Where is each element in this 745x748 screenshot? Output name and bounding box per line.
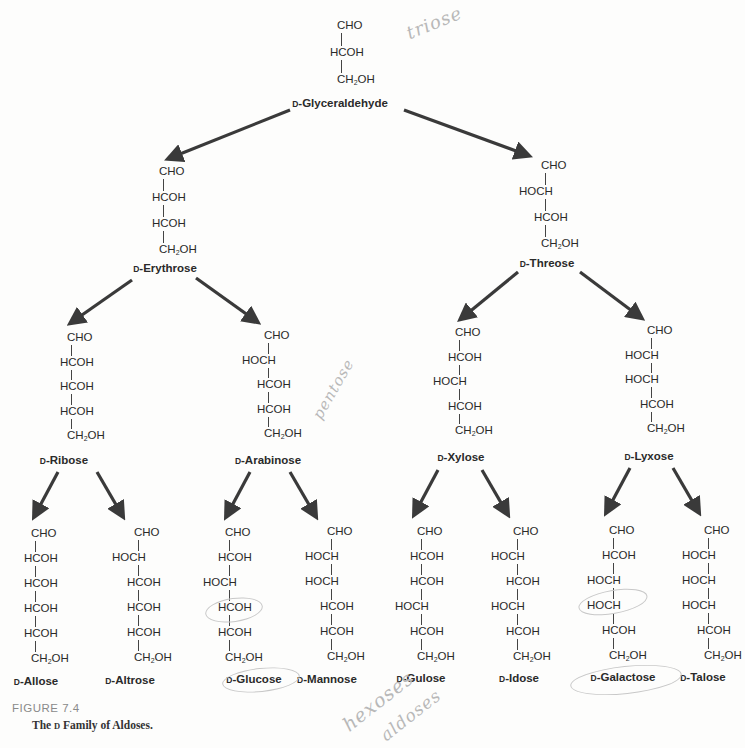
chain-group: CHO	[327, 526, 353, 538]
chain-group: HOCH	[682, 575, 716, 587]
bond-line	[71, 345, 72, 356]
bond-line	[331, 539, 332, 550]
name-text: -Erythrose	[139, 262, 197, 274]
chain-group: HCOH	[320, 601, 354, 613]
chain-group: HCOH	[60, 357, 94, 369]
name-text: -Allose	[20, 675, 58, 687]
name-text: -Altrose	[111, 674, 154, 686]
chain-group: HOCH	[112, 552, 146, 564]
bond-line	[613, 563, 614, 574]
bond-line	[651, 412, 652, 423]
chain-group: CHO	[704, 525, 730, 537]
bond-line	[163, 231, 164, 243]
molecule-name-ribose: D-Ribose	[40, 455, 88, 467]
chain-group: HOCH	[242, 355, 276, 367]
bond-line	[229, 565, 230, 576]
chain-group: CHO	[264, 330, 290, 342]
chain-group: HOCH	[305, 576, 339, 588]
bond-line	[421, 614, 422, 625]
bond-line	[163, 179, 164, 191]
chain-group: HCOH	[320, 626, 354, 638]
figure-label: FIGURE 7.4	[12, 702, 80, 714]
chain-group: HCOH	[506, 576, 540, 588]
chain-group: CH2OH	[513, 651, 551, 663]
arrow-erythrose-arabinose	[196, 278, 256, 321]
bond-line	[651, 338, 652, 349]
chain-group: HOCH	[519, 186, 553, 198]
chain-group: CHO	[609, 525, 635, 537]
arrow-ribose-allose	[35, 472, 58, 515]
chain-group: HCOH	[60, 406, 94, 418]
name-text: -Xylose	[444, 451, 485, 463]
arrow-arabinose-glucose	[227, 472, 250, 515]
chain-group: HCOH	[410, 551, 444, 563]
bond-line	[517, 539, 518, 550]
chain-group: CH2OH	[31, 653, 69, 665]
chain-group: HOCH	[491, 551, 525, 563]
chain-group: CH2OH	[225, 652, 263, 664]
chain-group: CHO	[134, 527, 160, 539]
chain-group: HCOH	[410, 626, 444, 638]
chain-group: HOCH	[203, 577, 237, 589]
bond-line	[331, 589, 332, 600]
chain-group: HCOH	[640, 399, 674, 411]
chain-group: CHO	[513, 526, 539, 538]
arrow-glyceraldehyde-threose	[404, 110, 527, 155]
chain-group: CH2OH	[541, 238, 579, 250]
name-text: -Idose	[505, 672, 539, 684]
chain-group: CH2OH	[337, 74, 375, 86]
chain-group: HCOH	[506, 626, 540, 638]
chain-group: HCOH	[218, 552, 252, 564]
chain-group: CHO	[647, 325, 673, 337]
bond-line	[459, 340, 460, 351]
chain-group: CHO	[67, 332, 93, 344]
bond-line	[268, 392, 269, 403]
chain-group: HCOH	[24, 553, 58, 565]
figure-title-suffix: Family of Aldoses.	[60, 719, 153, 731]
chain-group: CHO	[455, 327, 481, 339]
bond-line	[459, 365, 460, 376]
molecule-name-xylose: D-Xylose	[437, 452, 484, 464]
chain-group: HCOH	[218, 627, 252, 639]
bond-line	[341, 60, 342, 73]
bond-line	[517, 564, 518, 575]
chain-group: HCOH	[697, 625, 731, 637]
chain-group: CH2OH	[647, 423, 685, 435]
molecule-name-arabinose: D-Arabinose	[235, 455, 301, 467]
chain-group: CHO	[337, 20, 363, 32]
bond-line	[229, 640, 230, 651]
molecule-name-mannose: D-Mannose	[297, 674, 357, 686]
bond-line	[138, 565, 139, 576]
bond-line	[421, 564, 422, 575]
chain-group: HOCH	[682, 600, 716, 612]
chain-group: HOCH	[305, 551, 339, 563]
chain-group: CH2OH	[327, 651, 365, 663]
chain-group: HCOH	[127, 627, 161, 639]
molecule-name-erythrose: D-Erythrose	[133, 263, 197, 275]
arrow-threose-lyxose	[580, 272, 640, 317]
bond-line	[708, 538, 709, 549]
bond-line	[517, 614, 518, 625]
name-text: -Ribose	[46, 454, 88, 466]
chain-group: HCOH	[448, 352, 482, 364]
bond-line	[613, 538, 614, 549]
name-text: -Arabinose	[241, 454, 301, 466]
arrow-lyxose-talose	[673, 468, 698, 511]
chain-group: CHO	[159, 166, 185, 178]
chain-group: HOCH	[395, 601, 429, 613]
bond-line	[138, 615, 139, 626]
name-text: -Mannose	[303, 673, 357, 685]
chain-group: HCOH	[257, 379, 291, 391]
chain-group: HCOH	[24, 578, 58, 590]
bond-line	[163, 205, 164, 217]
chain-group: CH2OH	[704, 650, 742, 662]
bond-line	[613, 638, 614, 649]
chain-group: CH2OH	[264, 428, 302, 440]
arrow-xylose-idose	[482, 470, 507, 513]
chain-group: HCOH	[60, 381, 94, 393]
bond-line	[545, 225, 546, 237]
bond-line	[708, 563, 709, 574]
bond-line	[268, 417, 269, 428]
chain-group: HCOH	[448, 401, 482, 413]
bond-line	[459, 389, 460, 400]
